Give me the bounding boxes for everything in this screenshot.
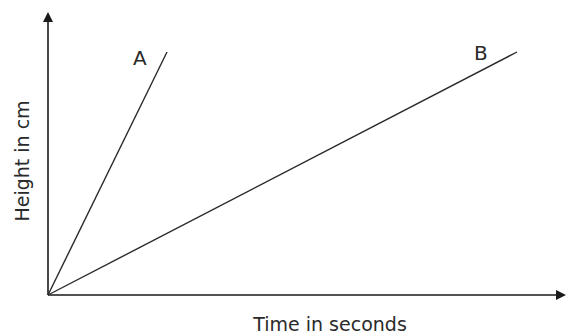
series-a-label: A [133, 46, 147, 70]
x-axis-label: Time in seconds [252, 313, 407, 335]
series-b-line [48, 52, 517, 295]
series-b-label: B [474, 41, 488, 65]
y-axis-label: Height in cm [11, 100, 33, 221]
series-a-line [48, 52, 167, 295]
line-chart: A B Time in seconds Height in cm [0, 0, 568, 336]
